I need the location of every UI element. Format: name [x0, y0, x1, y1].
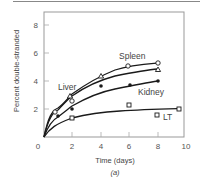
kidney-point: [70, 107, 74, 111]
spleen-point: [126, 64, 130, 68]
y-ticks: [44, 25, 49, 109]
kidney-point: [99, 84, 103, 88]
lt-point: [155, 113, 159, 117]
lt-point: [70, 116, 74, 120]
y-tick-label: 2: [34, 105, 39, 114]
lt-point: [127, 103, 131, 107]
x-tick-label: 2: [70, 142, 75, 151]
lt-label: LT: [163, 112, 172, 122]
kidney-point: [156, 79, 160, 83]
spleen-point: [53, 110, 57, 114]
spleen-point: [156, 61, 160, 65]
lt-point: [177, 107, 181, 111]
liver-label: Liver: [58, 82, 77, 92]
figure-caption: (a): [110, 168, 120, 177]
spleen-point: [70, 99, 74, 103]
x-tick-label: 4: [99, 142, 104, 151]
y-tick-label: 4: [34, 77, 39, 86]
chart: 8 6 4 2 0 2 4 6 8 10 Percent double-stra…: [0, 0, 200, 184]
x-tick-label: 8: [156, 142, 161, 151]
x-tick-label: 0: [36, 142, 41, 151]
kidney-point: [56, 114, 60, 118]
x-tick-label: 10: [182, 142, 191, 151]
y-axis-title: Percent double-stranded: [12, 30, 21, 112]
spleen-label: Spleen: [119, 51, 146, 61]
kidney-label: Kidney: [138, 87, 165, 97]
liver-curve: [44, 69, 158, 137]
x-tick-label: 6: [127, 142, 132, 151]
x-axis-title: Time (days): [95, 156, 135, 165]
kidney-point: [128, 83, 132, 87]
y-tick-label: 8: [34, 21, 39, 30]
y-tick-label: 6: [34, 49, 39, 58]
x-ticks: [72, 132, 158, 137]
